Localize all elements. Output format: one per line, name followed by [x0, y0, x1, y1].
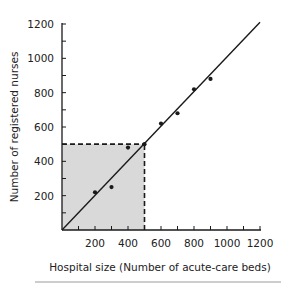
x-tick-label: 1000 — [214, 237, 241, 249]
regression-line — [62, 22, 260, 230]
x-tick-label: 800 — [184, 237, 204, 249]
y-tick-label: 600 — [34, 121, 54, 133]
data-point — [93, 190, 97, 194]
x-axis-title: Hospital size (Number of acute-care beds… — [49, 261, 271, 273]
x-tick-label: 200 — [85, 237, 105, 249]
data-point — [126, 146, 130, 150]
fit-line — [62, 22, 260, 230]
data-point — [175, 111, 179, 115]
chart: 2004006008001000120020040060080010001200… — [0, 0, 281, 285]
data-point — [208, 77, 212, 81]
x-tick-label: 400 — [118, 237, 138, 249]
data-point — [159, 121, 163, 125]
x-tick-label: 600 — [151, 237, 171, 249]
data-point — [142, 142, 146, 146]
y-tick-label: 800 — [34, 87, 54, 99]
y-axis-title: Number of registered nurses — [8, 52, 20, 203]
y-tick-label: 200 — [34, 190, 54, 202]
data-point — [109, 185, 113, 189]
y-tick-label: 400 — [34, 155, 54, 167]
x-tick-label: 1200 — [247, 237, 274, 249]
data-point — [192, 87, 196, 91]
y-tick-label: 1000 — [27, 52, 54, 64]
y-tick-label: 1200 — [27, 18, 54, 30]
